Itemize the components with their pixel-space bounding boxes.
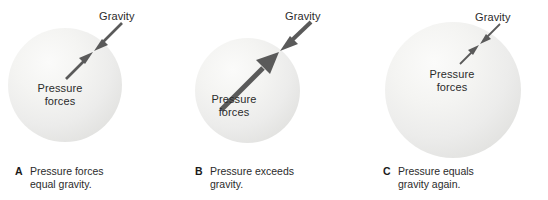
pressure-label-b: Pressure forces: [202, 93, 266, 118]
gravity-label-b: Gravity: [285, 10, 321, 23]
caption-letter-a: A: [15, 165, 23, 177]
caption-b-line2: gravity.: [210, 178, 294, 191]
caption-a-line2: equal gravity.: [30, 178, 104, 191]
pressure-label-b-line1: Pressure: [202, 93, 266, 106]
gravity-label-a: Gravity: [99, 10, 135, 23]
caption-letter-b: B: [195, 165, 203, 177]
figure-container: Gravity Pressure forces A Pressure force…: [0, 0, 548, 200]
gravity-arrow-c: [480, 24, 500, 44]
caption-a-line1: Pressure forces: [30, 165, 104, 178]
pressure-label-a-line1: Pressure: [28, 82, 92, 95]
pressure-label-a-line2: forces: [28, 95, 92, 108]
panel-c: Gravity Pressure forces C Pressure equal…: [360, 0, 548, 200]
caption-text-b: Pressure exceeds gravity.: [210, 165, 294, 190]
pressure-label-c: Pressure forces: [420, 68, 484, 93]
caption-c-line1: Pressure equals: [398, 165, 474, 178]
gravity-arrow-a: [94, 23, 122, 51]
caption-letter-c: C: [383, 165, 391, 177]
caption-c-line2: gravity again.: [398, 178, 474, 191]
caption-text-c: Pressure equals gravity again.: [398, 165, 474, 190]
panel-b: Gravity Pressure forces B Pressure excee…: [180, 0, 360, 200]
pressure-label-c-line1: Pressure: [420, 68, 484, 81]
caption-b-line1: Pressure exceeds: [210, 165, 294, 178]
pressure-label-a: Pressure forces: [28, 82, 92, 107]
pressure-arrow-a: [66, 52, 93, 79]
gravity-label-c: Gravity: [475, 11, 511, 24]
pressure-label-b-line2: forces: [202, 106, 266, 119]
gravity-arrow-b: [280, 22, 311, 51]
pressure-arrow-c: [460, 45, 479, 64]
pressure-label-c-line2: forces: [420, 81, 484, 94]
panel-a: Gravity Pressure forces A Pressure force…: [0, 0, 180, 200]
caption-text-a: Pressure forces equal gravity.: [30, 165, 104, 190]
